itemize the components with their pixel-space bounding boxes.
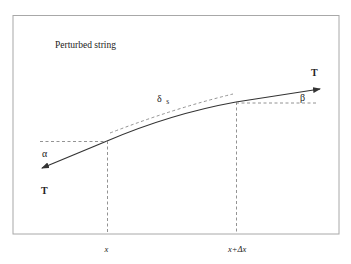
arc-length-guide [110,94,233,133]
arc-length-subscript: s [166,97,169,106]
angle-beta-label: β [300,92,305,103]
tension-arrow-right [236,89,320,102]
tension-arrow-left [42,141,107,168]
diagram-title: Perturbed string [55,40,116,50]
string-curve [107,102,236,141]
angle-alpha-label: α [42,148,48,159]
x-axis-label-left: x [104,244,109,254]
arc-length-label: δ s [157,93,169,106]
perturbed-string-diagram: Perturbed string T T α β δ s x x+Δx [0,0,351,264]
x-axis-label-right: x+Δx [227,244,246,254]
arc-length-delta: δ [157,93,162,104]
tension-label-left: T [41,185,48,196]
tension-label-right: T [311,67,318,78]
